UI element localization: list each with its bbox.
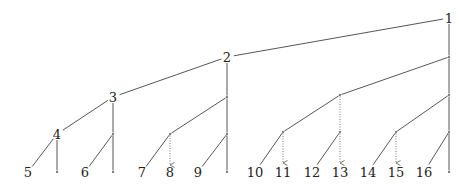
tree-edge [260, 133, 282, 164]
tree-node-dot [448, 171, 450, 173]
tree-node-label: 10 [247, 165, 264, 180]
tree-edge [284, 96, 338, 131]
tree-nodes: 12345678910111213141516 [24, 11, 453, 180]
tree-node-dot [226, 171, 228, 173]
tree-edge [171, 98, 225, 133]
tree-node-dot [339, 94, 341, 96]
tree-edge [120, 59, 222, 95]
tree-node-label: 6 [81, 165, 89, 180]
tree-edge [397, 96, 448, 131]
tree-edge [341, 57, 447, 94]
tree-node-label: 2 [223, 50, 231, 65]
tree-node-label: 11 [275, 165, 292, 180]
tree-edge [89, 135, 112, 166]
tree-node-dot [112, 171, 114, 173]
tree-node-dot [339, 131, 341, 133]
tree-node-label: 16 [416, 165, 433, 180]
tree-node-dot [282, 131, 284, 133]
tree-diagram: 12345678910111213141516 [0, 0, 474, 188]
tree-edge [32, 139, 53, 167]
tree-node-dot [112, 133, 114, 135]
tree-node-label: 5 [24, 165, 32, 180]
tree-node-label: 4 [53, 127, 61, 142]
tree-node-dot [395, 131, 397, 133]
tree-node-label: 3 [109, 90, 117, 105]
tree-edge [373, 133, 395, 164]
tree-node-dot [169, 133, 171, 135]
tree-node-label: 8 [166, 165, 174, 180]
tree-node-dot [226, 96, 228, 98]
tree-edge [234, 19, 443, 56]
tree-edge [146, 135, 169, 166]
tree-node-label: 1 [445, 11, 453, 26]
tree-edge [429, 133, 448, 164]
tree-node-label: 14 [360, 165, 377, 180]
tree-edge [202, 135, 226, 166]
tree-edges [32, 19, 449, 170]
tree-node-label: 7 [138, 165, 146, 180]
tree-node-dot [448, 56, 450, 58]
tree-node-dot [56, 171, 58, 173]
tree-edge [317, 133, 339, 164]
tree-node-dot [448, 94, 450, 96]
tree-node-label: 15 [388, 165, 405, 180]
tree-node-dot [226, 133, 228, 135]
tree-node-label: 13 [332, 165, 349, 180]
tree-node-dot [448, 131, 450, 133]
tree-node-label: 12 [304, 165, 321, 180]
tree-node-label: 9 [194, 165, 202, 180]
tree-edge [63, 100, 108, 130]
